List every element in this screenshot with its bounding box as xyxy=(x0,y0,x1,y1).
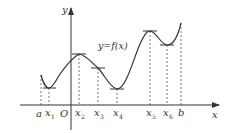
y-axis-label: y xyxy=(61,4,68,15)
dashed-guides xyxy=(41,23,181,105)
tick-sub-x5: 5 xyxy=(152,113,156,120)
function-graph: y x O y=f(x) a x 1 x 2 x 3 x 4 x 5 x 6 b xyxy=(0,0,232,133)
tick-sub-x3: 3 xyxy=(100,113,104,120)
function-curve xyxy=(41,23,181,89)
tick-sub-x2: 2 xyxy=(81,113,85,120)
tick-label-b: b xyxy=(178,107,184,118)
function-label: y=f(x) xyxy=(97,40,128,51)
tick-sub-x1: 1 xyxy=(51,113,55,120)
x-axis-label: x xyxy=(212,109,218,120)
tick-label-a: a xyxy=(36,108,42,119)
tick-sub-x6: 6 xyxy=(169,113,173,120)
tick-sub-x4: 4 xyxy=(119,113,123,120)
origin-label: O xyxy=(60,108,68,119)
